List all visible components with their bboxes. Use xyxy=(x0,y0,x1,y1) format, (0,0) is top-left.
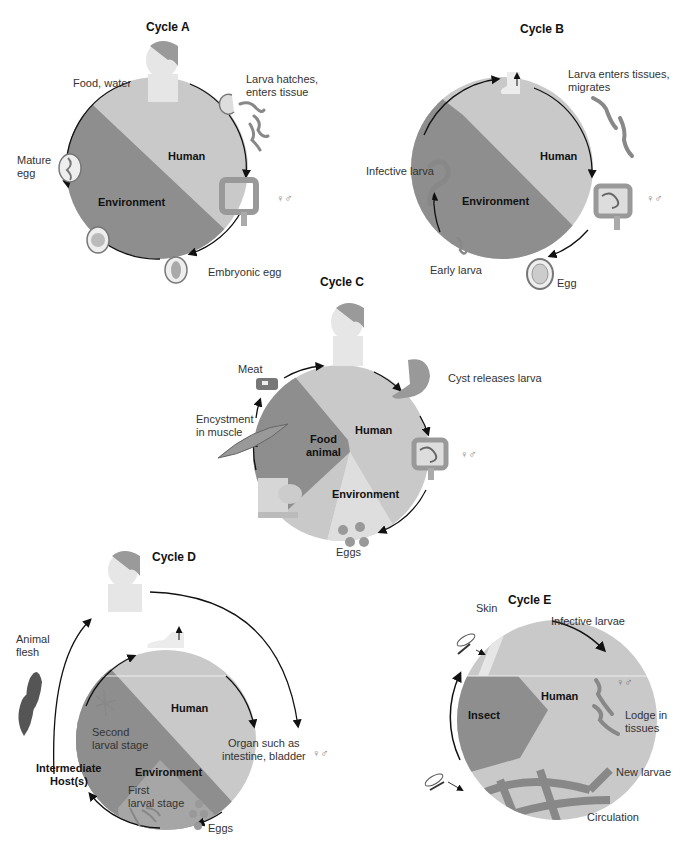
human-sector-label: Human xyxy=(541,690,578,702)
cycle-d-title: Cycle D xyxy=(152,550,196,564)
food-water-label: Food, water xyxy=(73,77,131,90)
human-head-icon xyxy=(331,303,364,366)
human-sector-label: Human xyxy=(171,702,208,714)
eggs-label: Eggs xyxy=(336,546,361,559)
larva-hatches-label: Larva hatches, xyxy=(246,73,318,86)
embryonic-egg-label: Embryonic egg xyxy=(208,266,281,279)
second-larval-label: Second xyxy=(92,726,129,739)
meat-icon xyxy=(256,378,278,390)
mosquito-icon xyxy=(423,772,462,790)
cycle-c-title: Cycle C xyxy=(320,275,364,289)
first-larval-label-2: larval stage xyxy=(128,797,184,810)
female-male-symbol: ♀♂ xyxy=(312,747,329,759)
in-muscle-label: in muscle xyxy=(196,426,242,439)
female-male-symbol: ♀♂ xyxy=(646,192,663,204)
organ-label-2: intestine, bladder xyxy=(222,750,306,763)
food-animal-sector-label-2: animal xyxy=(306,446,341,458)
lodge-label: Lodge in xyxy=(625,709,667,722)
meat-label: Meat xyxy=(238,363,262,376)
infective-larva-label: Infective larva xyxy=(366,165,434,178)
cycle-a-title: Cycle A xyxy=(146,20,190,34)
human-sector-label: Human xyxy=(540,150,577,162)
female-male-symbol: ♀♂ xyxy=(276,192,293,204)
infective-larvae-label: Infective larvae xyxy=(551,615,625,628)
environment-sector-label: Environment xyxy=(135,766,202,778)
cyst-releases-label: Cyst releases larva xyxy=(448,372,542,385)
migrating-larva-icon xyxy=(593,98,616,128)
cycle-b-title: Cycle B xyxy=(520,22,564,36)
egg-label: Egg xyxy=(557,277,577,290)
cycle-e-title: Cycle E xyxy=(508,593,551,607)
stomach-icon xyxy=(392,359,430,398)
animal-flesh-label: Animal xyxy=(16,633,50,646)
cycle-d-wheel xyxy=(18,551,298,830)
early-larva-label: Early larva xyxy=(430,264,482,277)
life-cycle-diagram xyxy=(0,0,687,844)
human-head-icon xyxy=(146,41,178,102)
circulation-label: Circulation xyxy=(587,811,639,824)
intestine-icon xyxy=(596,186,630,230)
enters-tissue-label: enters tissue xyxy=(246,86,308,99)
human-sector-label: Human xyxy=(355,424,392,436)
intermediate-host-label-2: Host(s) xyxy=(50,775,88,787)
encystment-label: Encystment xyxy=(196,413,253,426)
female-male-symbol: ♀♂ xyxy=(460,448,477,460)
hatching-egg-icon xyxy=(219,94,234,114)
animal-flesh-label-2: flesh xyxy=(16,646,39,659)
larva-icon xyxy=(240,103,264,112)
environment-sector-label: Environment xyxy=(98,196,165,208)
first-larval-label: First xyxy=(128,784,149,797)
animal-flesh-icon xyxy=(18,672,42,736)
human-head-icon xyxy=(108,551,142,612)
new-larvae-label: New larvae xyxy=(616,766,671,779)
cycle-b-wheel xyxy=(405,70,632,289)
female-male-symbol: ♀♂ xyxy=(616,676,633,688)
environment-sector-label: Environment xyxy=(332,488,399,500)
human-sector-label: Human xyxy=(168,150,205,162)
food-animal-sector-label: Food xyxy=(310,433,337,445)
skin-label: Skin xyxy=(476,602,497,615)
eggs-label: Eggs xyxy=(208,822,233,835)
foot-icon xyxy=(147,628,184,648)
larva-enters-label: Larva enters tissues, xyxy=(568,68,670,81)
environment-sector-label: Environment xyxy=(462,195,529,207)
insect-sector-label: Insect xyxy=(468,709,500,721)
second-larval-label-2: larval stage xyxy=(92,739,148,752)
mature-egg-label-2: egg xyxy=(17,167,35,180)
intermediate-host-label: Intermediate xyxy=(36,762,101,774)
cycle-e-wheel xyxy=(423,620,658,830)
mosquito-icon xyxy=(455,632,484,654)
organ-label: Organ such as xyxy=(228,737,300,750)
mature-egg-label: Mature xyxy=(17,154,51,167)
lodge-label-2: tissues xyxy=(625,722,659,735)
migrates-label: migrates xyxy=(568,81,610,94)
